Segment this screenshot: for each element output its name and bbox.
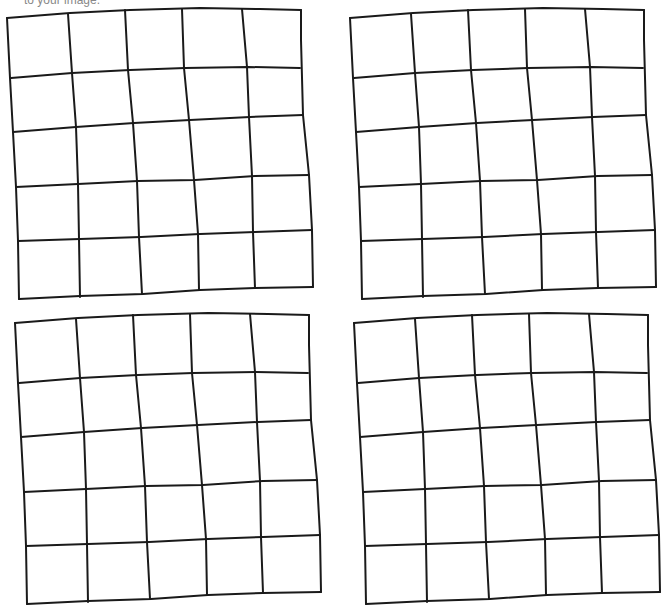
grid-line-vertical-3 [529, 314, 546, 595]
grid-line-horizontal-5 [27, 592, 321, 604]
grid-line-horizontal-2 [356, 115, 646, 132]
grid-line-horizontal-1 [354, 67, 643, 78]
grid-line-horizontal-4 [18, 230, 312, 241]
grid-line-horizontal-2 [13, 115, 303, 132]
grid-line-horizontal-3 [24, 480, 317, 492]
grid-line-horizontal-0 [350, 8, 644, 18]
grid-line-horizontal-1 [11, 67, 300, 78]
grid-line-horizontal-0 [7, 8, 301, 18]
grid-line-vertical-1 [76, 319, 88, 602]
grid-top-right [350, 8, 656, 299]
grid-top-left [7, 8, 313, 299]
grid-line-horizontal-3 [359, 175, 652, 187]
grid-line-vertical-2 [472, 315, 489, 599]
grid-line-vertical-0 [350, 18, 362, 299]
grid-line-vertical-3 [182, 9, 199, 290]
grid-line-horizontal-0 [15, 313, 309, 323]
grid-line-vertical-3 [525, 9, 542, 290]
grid-line-vertical-2 [133, 315, 150, 599]
grid-line-horizontal-1 [19, 372, 308, 383]
grid-line-vertical-5 [644, 10, 656, 287]
grid-line-vertical-0 [7, 18, 19, 299]
grid-line-vertical-2 [125, 10, 142, 294]
grid-line-vertical-0 [354, 323, 366, 604]
grid-line-vertical-4 [589, 314, 602, 593]
grid-line-vertical-1 [68, 14, 80, 297]
grid-line-horizontal-0 [354, 313, 648, 323]
grid-line-horizontal-4 [361, 230, 655, 241]
grid-line-vertical-5 [309, 315, 321, 592]
grid-line-horizontal-5 [19, 287, 313, 299]
grid-line-horizontal-3 [16, 175, 309, 187]
grid-line-vertical-1 [411, 14, 423, 297]
grid-line-vertical-1 [415, 319, 427, 602]
grid-line-vertical-2 [468, 10, 485, 294]
grid-line-horizontal-5 [362, 287, 656, 299]
grid-line-horizontal-5 [366, 592, 660, 604]
grid-line-horizontal-2 [360, 420, 650, 437]
grid-line-vertical-5 [648, 315, 660, 592]
grid-bottom-right [354, 313, 660, 604]
grid-line-vertical-0 [15, 323, 27, 604]
grid-line-horizontal-2 [21, 420, 311, 437]
grid-line-horizontal-3 [363, 480, 656, 492]
grid-line-vertical-4 [250, 314, 263, 593]
grid-line-horizontal-4 [365, 535, 659, 546]
grid-line-vertical-3 [190, 314, 207, 595]
grid-line-horizontal-1 [358, 372, 647, 383]
grid-bottom-left [15, 313, 321, 604]
grid-line-vertical-4 [242, 9, 255, 288]
drawing-canvas [0, 0, 666, 610]
grid-line-vertical-5 [301, 10, 313, 287]
grid-line-horizontal-4 [26, 535, 320, 546]
grid-line-vertical-4 [585, 9, 598, 288]
